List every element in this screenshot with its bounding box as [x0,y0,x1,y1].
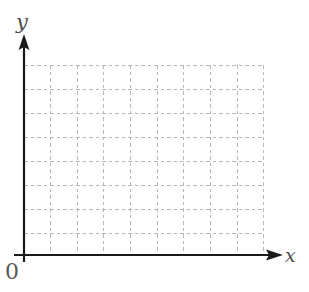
x-axis-label: x [285,246,296,265]
y-axis-label: y [16,12,28,33]
coordinate-grid-figure: y x 0 [0,0,309,292]
grid-canvas [0,0,309,292]
origin-label: 0 [5,261,19,283]
canvas-background [0,0,309,292]
